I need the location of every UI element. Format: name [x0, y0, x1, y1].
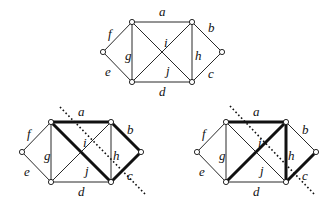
- label-e: e: [105, 64, 111, 79]
- label-a: a: [78, 104, 85, 119]
- graph-diagram: a b c d e f g h i j a b c d e f g: [0, 0, 333, 206]
- node-lower-left: [129, 79, 134, 84]
- label-h: h: [288, 148, 295, 163]
- label-a: a: [159, 4, 166, 19]
- label-g: g: [44, 148, 51, 163]
- node-upper-right: [189, 19, 194, 24]
- node-upper-right: [283, 119, 288, 124]
- node-upper-right: [108, 119, 113, 124]
- node-upper-left: [129, 19, 134, 24]
- label-g: g: [125, 48, 132, 63]
- label-d: d: [159, 84, 166, 99]
- label-f: f: [202, 126, 208, 141]
- label-b: b: [127, 122, 134, 137]
- label-a: a: [253, 104, 260, 119]
- label-c: c: [127, 168, 133, 183]
- label-d: d: [253, 184, 260, 199]
- label-f: f: [27, 126, 33, 141]
- label-e: e: [24, 164, 30, 179]
- label-c: c: [302, 168, 308, 183]
- label-d: d: [78, 184, 85, 199]
- label-j: j: [164, 63, 170, 78]
- label-f: f: [108, 26, 114, 41]
- label-i: i: [83, 135, 87, 150]
- node-lower-right: [189, 79, 194, 84]
- node-lower-left: [223, 179, 228, 184]
- label-e: e: [199, 164, 205, 179]
- label-j: j: [83, 163, 89, 178]
- node-upper-left: [223, 119, 228, 124]
- graph-cut-2: a b c d e f g h i j: [194, 104, 318, 199]
- node-right: [313, 149, 318, 154]
- node-lower-right: [283, 179, 288, 184]
- node-lower-right: [108, 179, 113, 184]
- label-h: h: [113, 148, 120, 163]
- node-right: [138, 149, 143, 154]
- label-g: g: [219, 148, 226, 163]
- label-b: b: [208, 20, 215, 35]
- graph-original: a b c d e f g h i j: [100, 4, 224, 99]
- node-right: [219, 49, 224, 54]
- label-h: h: [195, 48, 202, 63]
- node-left: [194, 149, 199, 154]
- node-upper-left: [48, 119, 53, 124]
- label-c: c: [208, 66, 214, 81]
- label-i: i: [164, 35, 168, 50]
- label-j: j: [258, 163, 264, 178]
- label-i: i: [258, 135, 262, 150]
- label-b: b: [302, 122, 309, 137]
- node-left: [19, 149, 24, 154]
- graph-cut-1: a b c d e f g h i j: [19, 104, 146, 199]
- node-lower-left: [48, 179, 53, 184]
- node-left: [100, 49, 105, 54]
